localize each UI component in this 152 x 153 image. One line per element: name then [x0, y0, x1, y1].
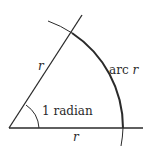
arc-length-variable: r	[132, 63, 138, 77]
arc-length-label: arc r	[109, 64, 138, 76]
arc-length-text: arc r	[109, 63, 138, 77]
base-length-label: r	[73, 131, 79, 143]
arc-extension-top	[48, 21, 72, 33]
arc-extension-bottom	[121, 128, 123, 146]
angle-marker	[26, 105, 39, 128]
angle-label: 1 radian	[42, 105, 93, 117]
radian-diagram: r arc r 1 radian r	[0, 0, 152, 153]
ray-length-label: r	[38, 60, 44, 72]
